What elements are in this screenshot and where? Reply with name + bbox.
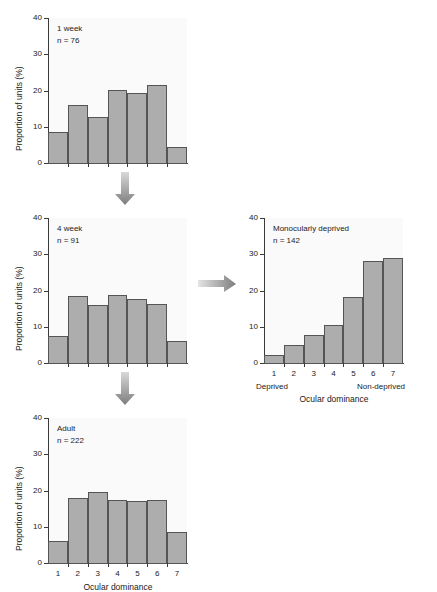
- y-tick-20: [44, 291, 48, 292]
- x-tick-label-5: 5: [130, 570, 144, 578]
- bar-4: [108, 90, 128, 164]
- x-tick-6: [167, 363, 168, 367]
- y-tick-label-30: 30: [24, 250, 42, 258]
- y-tick-label-10: 10: [240, 323, 258, 331]
- x-tick-label-7: 7: [170, 570, 184, 578]
- x-tick-label-2: 2: [287, 370, 301, 378]
- y-tick-30: [44, 254, 48, 255]
- x-tick-3: [324, 363, 325, 367]
- y-axis-monocularly-deprived: [264, 218, 265, 364]
- chart-adult: 40 30 20 10 0 Proportion of units (%) Ad…: [0, 400, 210, 583]
- chart-title-one-week: 1 week: [57, 23, 82, 34]
- x-tick-1: [68, 563, 69, 567]
- x-tick-label-1: 1: [51, 570, 65, 578]
- bar-6: [147, 304, 167, 364]
- x-tick-6: [383, 363, 384, 367]
- bar-4: [108, 500, 128, 564]
- y-tick-label-20: 20: [24, 87, 42, 95]
- x-tick-6: [167, 563, 168, 567]
- x-tick-1: [68, 163, 69, 167]
- chart-n-one-week: n = 76: [57, 35, 79, 46]
- x-tick-3: [108, 363, 109, 367]
- x-tick-4: [127, 563, 128, 567]
- x-tick-label-5: 5: [346, 370, 360, 378]
- bar-2: [68, 296, 88, 364]
- x-tick-3: [108, 163, 109, 167]
- y-tick-label-40: 40: [24, 414, 42, 422]
- x-tick-5: [363, 363, 364, 367]
- x-tick-2: [88, 363, 89, 367]
- y-axis-label-adult: Proportion of units (%): [14, 466, 24, 551]
- y-tick-30: [44, 454, 48, 455]
- chart-one-week: 40 30 20 10 0 Proportion of units (%) 1 …: [0, 0, 210, 185]
- y-tick-label-40: 40: [24, 14, 42, 22]
- bar-7: [383, 258, 403, 364]
- y-axis-label-four-week: Proportion of units (%): [14, 266, 24, 351]
- y-axis-label-one-week: Proportion of units (%): [14, 66, 24, 151]
- bar-6: [363, 261, 383, 364]
- x-tick-2: [88, 563, 89, 567]
- x-tick-5: [147, 363, 148, 367]
- x-tick-label-1: 1: [267, 370, 281, 378]
- x-tick-label-4: 4: [327, 370, 341, 378]
- y-tick-label-40: 40: [240, 214, 258, 222]
- x-tick-3: [108, 563, 109, 567]
- chart-n-four-week: n = 91: [57, 235, 79, 246]
- bar-7: [167, 341, 187, 364]
- bar-1: [48, 336, 68, 364]
- y-tick-30: [44, 54, 48, 55]
- chart-four-week: 40 30 20 10 0 Proportion of units (%) 4 …: [0, 200, 210, 385]
- x-tick-label-4: 4: [111, 570, 125, 578]
- y-tick-label-30: 30: [240, 250, 258, 258]
- x-tick-1: [68, 363, 69, 367]
- y-tick-20: [44, 91, 48, 92]
- x-tick-4: [127, 163, 128, 167]
- bar-1: [48, 541, 68, 564]
- y-tick-40: [260, 218, 264, 219]
- x-axis-label-adult: Ocular dominance: [58, 582, 178, 592]
- x-end-label-non-deprived: Non-deprived: [357, 382, 405, 391]
- y-tick-label-10: 10: [24, 123, 42, 131]
- bar-2: [284, 345, 304, 364]
- chart-title-monocularly-deprived: Monocularly deprived: [273, 223, 349, 234]
- x-tick-label-2: 2: [71, 570, 85, 578]
- y-tick-40: [44, 418, 48, 419]
- bar-3: [88, 305, 108, 364]
- chart-title-adult: Adult: [57, 423, 75, 434]
- bar-7: [167, 147, 187, 164]
- bar-5: [127, 501, 147, 564]
- y-tick-label-30: 30: [24, 50, 42, 58]
- y-tick-40: [44, 218, 48, 219]
- bar-3: [88, 117, 108, 164]
- y-tick-10: [44, 327, 48, 328]
- y-tick-label-0: 0: [240, 359, 258, 367]
- y-tick-20: [260, 291, 264, 292]
- bar-3: [88, 492, 108, 564]
- chart-n-adult: n = 222: [57, 435, 84, 446]
- x-tick-label-6: 6: [150, 570, 164, 578]
- x-tick-2: [304, 363, 305, 367]
- bar-6: [147, 500, 167, 564]
- x-tick-4: [343, 363, 344, 367]
- x-tick-label-6: 6: [366, 370, 380, 378]
- bar-1: [264, 355, 284, 364]
- bar-6: [147, 85, 167, 164]
- bar-7: [167, 532, 187, 564]
- y-tick-label-10: 10: [24, 323, 42, 331]
- y-tick-20: [44, 491, 48, 492]
- y-tick-10: [44, 527, 48, 528]
- y-tick-label-0: 0: [24, 359, 42, 367]
- bar-4: [324, 325, 344, 364]
- y-tick-10: [44, 127, 48, 128]
- y-tick-label-20: 20: [24, 487, 42, 495]
- x-tick-label-3: 3: [91, 570, 105, 578]
- x-tick-5: [147, 163, 148, 167]
- bar-3: [304, 335, 324, 364]
- y-tick-10: [260, 327, 264, 328]
- y-tick-label-10: 10: [24, 523, 42, 531]
- bar-5: [127, 93, 147, 164]
- chart-title-four-week: 4 week: [57, 223, 82, 234]
- bar-5: [127, 299, 147, 365]
- bar-2: [68, 105, 88, 164]
- x-axis-label-monocularly-deprived: Ocular dominance: [274, 394, 394, 404]
